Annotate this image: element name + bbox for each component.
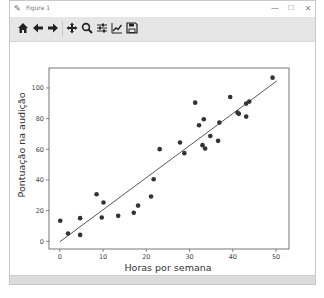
x-tick-label: 30 (185, 253, 193, 261)
data-point (247, 99, 252, 104)
data-point (203, 146, 208, 151)
data-point (66, 231, 71, 236)
data-point (136, 203, 141, 208)
scatter-plot: 01020304050020406080100 Horas por semana… (1, 1, 324, 298)
data-point (131, 211, 136, 216)
x-tick-label: 20 (142, 253, 150, 261)
data-point (78, 216, 83, 221)
data-point (216, 139, 221, 144)
data-point (78, 233, 83, 238)
data-point (116, 214, 121, 219)
data-point (58, 218, 63, 223)
data-point (99, 215, 104, 220)
y-tick-label: 0 (40, 238, 44, 246)
data-point (182, 151, 187, 156)
y-tick-label: 20 (36, 207, 44, 215)
y-tick-label: 60 (36, 146, 44, 154)
data-point (151, 177, 156, 182)
data-point (94, 192, 99, 197)
data-point (101, 200, 106, 205)
status-bar (10, 275, 315, 284)
x-tick-label: 50 (272, 253, 280, 261)
data-point (178, 140, 183, 145)
data-point (197, 123, 202, 128)
figure-window: ✎ Figure 1 — ☐ ✕ (9, 0, 316, 285)
data-point (228, 95, 233, 100)
data-point (217, 120, 222, 125)
data-point (157, 147, 162, 152)
x-tick-label: 40 (229, 253, 237, 261)
data-point (149, 194, 154, 199)
x-tick-label: 0 (58, 253, 62, 261)
data-point (270, 75, 275, 80)
x-tick-label: 10 (99, 253, 107, 261)
y-axis-label: Pontuação na audição (16, 92, 27, 197)
data-point (237, 112, 242, 117)
y-tick-label: 80 (36, 115, 44, 123)
data-point (208, 134, 213, 139)
y-tick-label: 100 (32, 84, 44, 92)
data-point (202, 117, 207, 122)
regression-line (60, 81, 277, 242)
axes-frame (49, 68, 289, 249)
data-point (193, 100, 198, 105)
figure-canvas[interactable]: 01020304050020406080100 Horas por semana… (10, 42, 315, 277)
x-axis-label: Horas por semana (124, 262, 211, 273)
y-tick-label: 40 (36, 176, 44, 184)
data-point (244, 114, 249, 119)
data-points (58, 75, 275, 237)
